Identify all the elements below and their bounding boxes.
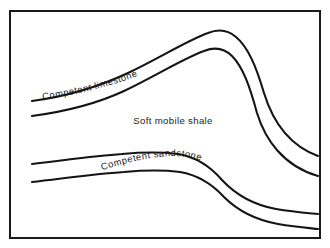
cross-section-canvas: Competent limestone Soft mobile shale Co… — [0, 0, 330, 248]
geologic-cross-section-figure: Competent limestone Soft mobile shale Co… — [0, 0, 330, 248]
shale-label: Soft mobile shale — [133, 115, 213, 126]
soft-mobile-shale-unit: Soft mobile shale — [133, 115, 213, 126]
